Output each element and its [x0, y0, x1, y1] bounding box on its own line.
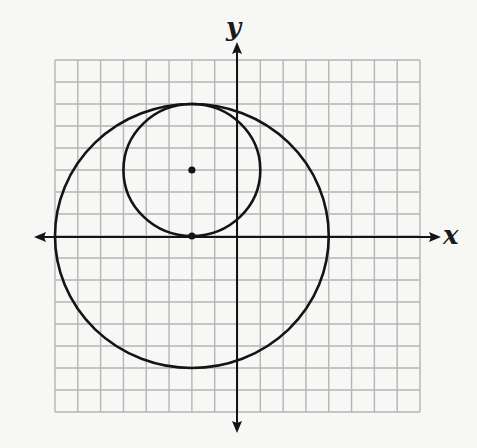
y-axis-label: y: [226, 14, 241, 40]
small-circle-center-point: [188, 166, 195, 173]
coordinate-plane: [0, 0, 477, 448]
large-circle-center-point: [188, 232, 195, 239]
x-axis-label: x: [443, 222, 459, 248]
axes: [34, 42, 441, 433]
